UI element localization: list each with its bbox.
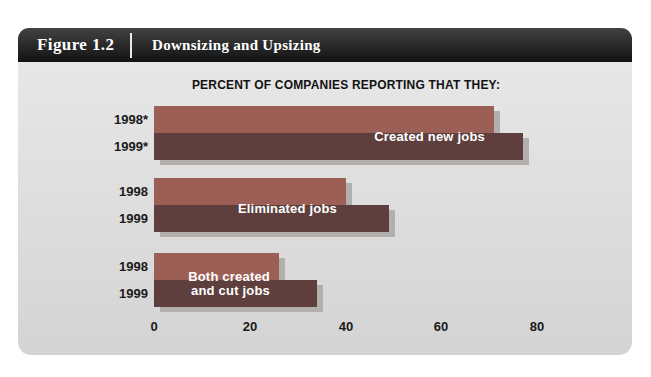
year-label-1999-group-1: 1999* [88, 133, 148, 160]
x-axis: 020406080 [154, 319, 624, 337]
plot: 020406080 1998*1999*Created new jobs1998… [154, 106, 624, 346]
chart-title: PERCENT OF COMPANIES REPORTING THAT THEY… [154, 78, 538, 92]
x-tick-60: 60 [434, 319, 448, 334]
bar-group-1: 1998*1999*Created new jobs [154, 106, 624, 166]
x-tick-20: 20 [243, 319, 257, 334]
bar-group-label-2: Eliminated jobs [154, 202, 337, 216]
bar-group-3: 19981999Both created and cut jobs [154, 253, 624, 313]
figure-number: Figure 1.2 [37, 28, 114, 62]
x-tick-80: 80 [530, 319, 544, 334]
bar-group-label-1: Created new jobs [154, 130, 485, 144]
x-tick-0: 0 [150, 319, 157, 334]
bar-group-label-3: Both created and cut jobs [154, 270, 270, 298]
year-label-1998-group-3: 1998 [88, 253, 148, 280]
year-label-1998-group-1: 1998* [88, 106, 148, 133]
year-label-1999-group-3: 1999 [88, 280, 148, 307]
header-divider [130, 33, 132, 58]
year-label-1999-group-2: 1999 [88, 205, 148, 232]
bar-group-2: 19981999Eliminated jobs [154, 178, 624, 238]
figure-title: Downsizing and Upsizing [152, 28, 321, 62]
figure-header: Figure 1.2 Downsizing and Upsizing [18, 28, 632, 62]
year-label-1998-group-2: 1998 [88, 178, 148, 205]
x-tick-40: 40 [339, 319, 353, 334]
page: Figure 1.2 Downsizing and Upsizing PERCE… [0, 0, 651, 377]
figure-card: Figure 1.2 Downsizing and Upsizing PERCE… [18, 28, 632, 355]
chart-panel: PERCENT OF COMPANIES REPORTING THAT THEY… [18, 62, 632, 355]
